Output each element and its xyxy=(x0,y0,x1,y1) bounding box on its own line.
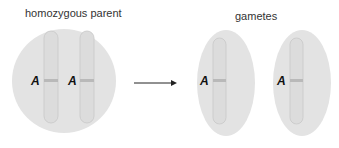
chromosome-2 xyxy=(80,31,94,123)
gamete-allele-label-1: A xyxy=(199,74,209,88)
allele-band xyxy=(44,79,58,82)
allele-label-2: A xyxy=(67,74,77,88)
arrow-icon xyxy=(134,80,177,86)
gamete-allele-label-2: A xyxy=(276,74,286,88)
allele-band xyxy=(290,79,303,82)
allele-label-1: A xyxy=(30,74,40,88)
gamete-2: A xyxy=(273,30,331,136)
parent-cell: A A xyxy=(12,29,116,133)
gamete-1: A xyxy=(197,30,255,136)
chromosome-1 xyxy=(44,31,58,123)
allele-band xyxy=(213,79,226,82)
allele-band xyxy=(80,79,94,82)
meiosis-diagram: A A A A xyxy=(0,0,339,148)
